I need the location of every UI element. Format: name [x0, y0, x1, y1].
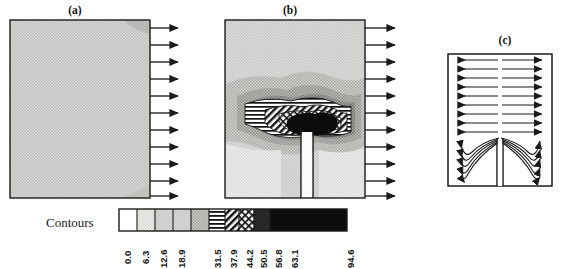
legend-tick-2: 12.6: [158, 250, 169, 269]
legend-colorbar: [118, 207, 348, 235]
legend-tick-0: 0.0: [122, 251, 133, 264]
legend-swatches: [119, 209, 347, 231]
contour-legend: Contours: [0, 0, 570, 269]
legend-title: Contours: [46, 215, 94, 231]
legend-tick-5: 37.9: [228, 250, 239, 269]
legend-tick-7: 50.5: [258, 250, 269, 269]
legend-tick-1: 6.3: [140, 251, 151, 264]
legend-tick-10: 94.6: [345, 250, 356, 269]
legend-tick-9: 63.1: [289, 250, 300, 269]
legend-tick-6: 44.2: [244, 250, 255, 269]
figure-root: (a) (b) (c): [0, 0, 570, 269]
legend-tick-3: 18.9: [176, 250, 187, 269]
legend-tick-8: 56.8: [273, 250, 284, 269]
legend-tick-4: 31.5: [212, 250, 223, 269]
